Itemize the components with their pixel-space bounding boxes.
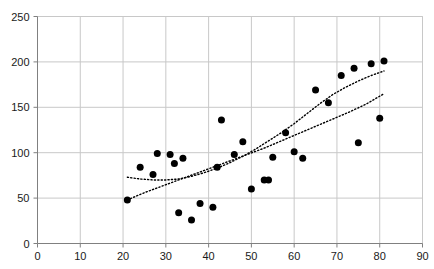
data-point xyxy=(175,209,182,216)
x-tick-label: 20 xyxy=(117,250,129,262)
data-point xyxy=(179,155,186,162)
data-point xyxy=(167,151,174,158)
data-point xyxy=(265,176,272,183)
data-point xyxy=(338,72,345,79)
data-point xyxy=(351,65,358,72)
data-point xyxy=(137,164,144,171)
x-tick-label: 30 xyxy=(160,250,172,262)
y-tick-label: 0 xyxy=(23,238,29,250)
y-tick-label: 250 xyxy=(11,11,29,23)
data-point xyxy=(150,171,157,178)
x-tick-label: 60 xyxy=(288,250,300,262)
data-point xyxy=(282,129,289,136)
data-point xyxy=(325,99,332,106)
x-axis-ticks xyxy=(38,244,423,248)
x-tick-label: 10 xyxy=(74,250,86,262)
y-axis-tick-labels: 050100150200250 xyxy=(11,11,29,250)
data-point xyxy=(154,150,161,157)
data-point xyxy=(269,154,276,161)
data-point xyxy=(299,155,306,162)
data-point xyxy=(376,115,383,122)
chart-canvas: 0102030405060708090050100150200250 xyxy=(0,0,434,269)
y-tick-label: 50 xyxy=(17,192,29,204)
data-point xyxy=(248,186,255,193)
data-point xyxy=(197,200,204,207)
y-tick-label: 200 xyxy=(11,56,29,68)
x-tick-label: 90 xyxy=(416,250,428,262)
plot-background xyxy=(38,17,423,244)
x-tick-label: 70 xyxy=(331,250,343,262)
data-point xyxy=(368,60,375,67)
x-tick-label: 80 xyxy=(374,250,386,262)
data-point xyxy=(355,139,362,146)
x-tick-label: 50 xyxy=(245,250,257,262)
data-point xyxy=(291,148,298,155)
data-point xyxy=(218,117,225,124)
data-point xyxy=(231,151,238,158)
data-point xyxy=(209,204,216,211)
data-point xyxy=(239,138,246,145)
x-tick-label: 0 xyxy=(34,250,40,262)
x-axis-tick-labels: 0102030405060708090 xyxy=(34,250,428,262)
data-point xyxy=(381,57,388,64)
scatter-chart: 0102030405060708090050100150200250 xyxy=(0,0,434,269)
data-point xyxy=(214,164,221,171)
x-tick-label: 40 xyxy=(202,250,214,262)
y-axis-ticks xyxy=(34,17,38,244)
data-point xyxy=(171,160,178,167)
data-point xyxy=(312,87,319,94)
y-tick-label: 150 xyxy=(11,101,29,113)
y-tick-label: 100 xyxy=(11,147,29,159)
data-point xyxy=(188,216,195,223)
data-point xyxy=(124,196,131,203)
